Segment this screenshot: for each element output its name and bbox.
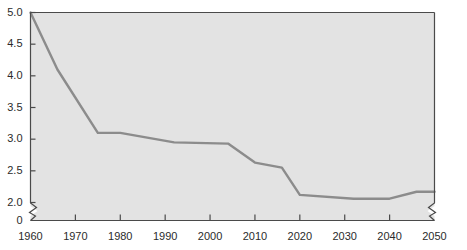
x-tick-label: 2050 (405, 230, 465, 242)
y-tick-label: 4.0 (0, 69, 23, 81)
plot-background (31, 13, 435, 221)
line-chart-plot (0, 0, 467, 250)
y-tick-label: 2.0 (0, 196, 23, 208)
y-tick-label: 2.5 (0, 164, 23, 176)
y-tick-label: 3.5 (0, 101, 23, 113)
y-tick-label: 5.0 (0, 6, 23, 18)
y-tick-label: 4.5 (0, 37, 23, 49)
y-tick-label: 0 (0, 214, 23, 226)
y-tick-label: 3.0 (0, 132, 23, 144)
chart-figure: 5.04.54.03.53.02.52.00 19601970198019902… (0, 0, 467, 250)
